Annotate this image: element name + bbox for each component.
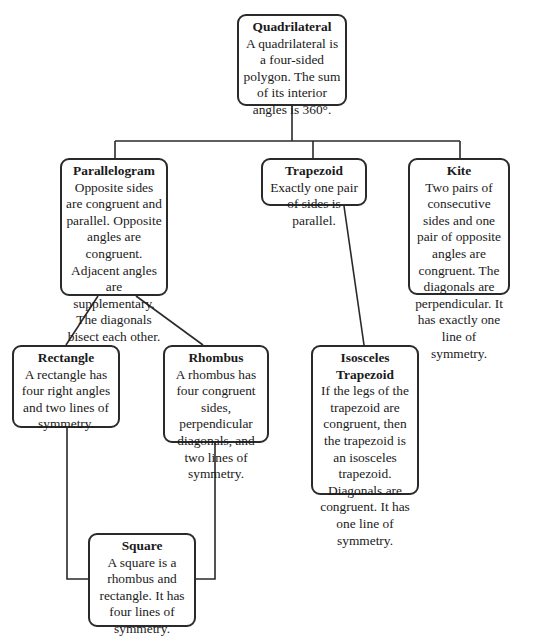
node-description: If the legs of the trapezoid are congrue…: [317, 383, 413, 549]
node-rectangle: Rectangle A rectangle has four right ang…: [12, 345, 120, 428]
node-square: Square A square is a rhombus and rectang…: [88, 533, 196, 627]
node-title: Trapezoid: [267, 163, 361, 180]
node-description: Opposite sides are congruent and paralle…: [66, 180, 162, 346]
node-description: A rhombus has four congruent sides, perp…: [169, 367, 263, 483]
node-title: Rhombus: [169, 350, 263, 367]
node-description: A square is a rhombus and rectangle. It …: [94, 555, 190, 636]
node-isosceles-trapezoid: Isosceles Trapezoid If the legs of the t…: [311, 345, 419, 495]
node-kite: Kite Two pairs of consecutive sides and …: [408, 158, 510, 295]
node-description: Two pairs of consecutive sides and one p…: [414, 180, 504, 363]
node-title: Quadrilateral: [243, 19, 341, 36]
node-description: A quadrilateral is a four-sided polygon.…: [243, 36, 341, 119]
node-title: Parallelogram: [66, 163, 162, 180]
node-description: Exactly one pair of sides is parallel.: [267, 180, 361, 230]
node-title: Square: [94, 538, 190, 555]
node-trapezoid: Trapezoid Exactly one pair of sides is p…: [261, 158, 367, 206]
node-parallelogram: Parallelogram Opposite sides are congrue…: [60, 158, 168, 296]
node-description: A rectangle has four right angles and tw…: [18, 367, 114, 433]
node-quadrilateral: Quadrilateral A quadrilateral is a four-…: [237, 14, 347, 106]
node-title: Isosceles Trapezoid: [317, 350, 413, 383]
edge-rectangle-square: [67, 428, 88, 579]
node-rhombus: Rhombus A rhombus has four congruent sid…: [163, 345, 269, 443]
node-title: Rectangle: [18, 350, 114, 367]
node-title: Kite: [414, 163, 504, 180]
